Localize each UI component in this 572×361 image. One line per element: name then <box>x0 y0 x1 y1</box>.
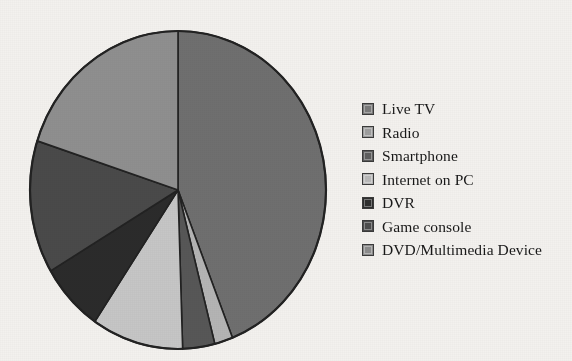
chart-legend: Live TVRadioSmartphoneInternet on PCDVRG… <box>362 97 567 262</box>
legend-swatch-icon <box>362 103 374 115</box>
pie-slices-group <box>30 31 326 349</box>
pie-chart-svg <box>0 0 345 361</box>
legend-item-label: Radio <box>382 125 420 141</box>
legend-swatch-icon <box>362 150 374 162</box>
legend-item-label: Smartphone <box>382 148 458 164</box>
legend-swatch-icon <box>362 173 374 185</box>
legend-item[interactable]: DVR <box>362 191 567 215</box>
legend-item-label: Game console <box>382 219 471 235</box>
legend-item[interactable]: Live TV <box>362 97 567 121</box>
legend-swatch-icon <box>362 126 374 138</box>
chart-page: Live TVRadioSmartphoneInternet on PCDVRG… <box>0 0 572 361</box>
legend-swatch-icon <box>362 244 374 256</box>
legend-swatch-icon <box>362 220 374 232</box>
legend-item-label: DVD/Multimedia Device <box>382 242 542 258</box>
legend-item[interactable]: Radio <box>362 121 567 145</box>
legend-item-label: Internet on PC <box>382 172 474 188</box>
legend-item[interactable]: DVD/Multimedia Device <box>362 238 567 262</box>
legend-item[interactable]: Internet on PC <box>362 168 567 192</box>
legend-item-label: DVR <box>382 195 415 211</box>
legend-swatch-icon <box>362 197 374 209</box>
legend-item[interactable]: Smartphone <box>362 144 567 168</box>
legend-item[interactable]: Game console <box>362 215 567 239</box>
legend-item-label: Live TV <box>382 101 435 117</box>
pie-chart-figure <box>0 0 345 361</box>
